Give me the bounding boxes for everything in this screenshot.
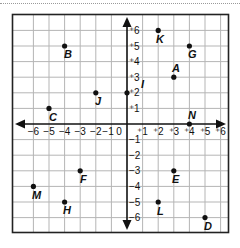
y-tick: −5 (129, 197, 141, 208)
point-n (187, 121, 192, 126)
point-label-h: H (63, 204, 72, 216)
point-label-k: K (156, 33, 165, 45)
point-label-a: A (171, 62, 180, 74)
point-l (156, 199, 161, 204)
x-tick: −4 (59, 126, 71, 137)
point-label-c: C (49, 111, 58, 123)
coordinate-grid-chart: −6 −5 −4 −3 −2 −1 0 ⁺1 ⁺2 ⁺3 ⁺4 ⁺5 ⁺6 ⁺6… (0, 0, 240, 248)
point-label-e: E (172, 173, 180, 185)
point-label-l: L (157, 205, 164, 217)
y-tick: −6 (129, 212, 141, 223)
x-tick: −6 (28, 126, 40, 137)
point-label-b: B (64, 48, 72, 60)
point-label-f: F (80, 173, 87, 185)
point-label-j: J (95, 95, 102, 107)
x-tick: −2 (90, 126, 102, 137)
x-tick: ⁺6 (215, 126, 226, 137)
y-tick: −1 (129, 134, 141, 145)
point-label-i: I (141, 78, 145, 90)
point-label-m: M (32, 189, 42, 201)
point-label-n: N (188, 109, 197, 121)
x-tick: −5 (43, 126, 55, 137)
y-tick: ⁺2 (129, 87, 140, 98)
x-tick: ⁺3 (169, 126, 180, 137)
y-tick: ⁺1 (129, 103, 140, 114)
x-axis-left-arrow-icon (15, 120, 25, 129)
y-tick: −3 (129, 165, 141, 176)
x-tick: ⁺4 (184, 126, 195, 137)
point-label-g: G (188, 48, 197, 60)
x-tick: −3 (74, 126, 86, 137)
y-tick: ⁺6 (129, 25, 140, 36)
x-tick: −1 (102, 126, 114, 137)
y-tick: −4 (129, 181, 141, 192)
point-i (124, 90, 129, 95)
x-tick: 0 (116, 126, 122, 137)
y-tick: −2 (129, 150, 141, 161)
y-tick: ⁺3 (129, 72, 140, 83)
x-tick: ⁺5 (200, 126, 211, 137)
y-tick: ⁺4 (129, 56, 140, 67)
point-a (171, 75, 176, 80)
x-tick: ⁺2 (153, 126, 164, 137)
y-tick: ⁺5 (129, 41, 140, 52)
point-label-d: D (204, 220, 212, 232)
